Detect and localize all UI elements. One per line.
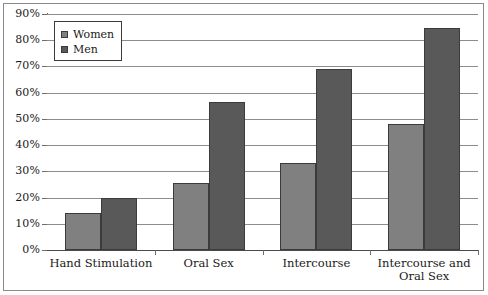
y-axis-tick-label: 50%	[2, 113, 40, 124]
legend-item-men: Men	[61, 42, 115, 56]
y-axis-tick-label: 20%	[2, 192, 40, 203]
bar-women-2	[280, 163, 316, 250]
y-axis-tick	[42, 224, 47, 225]
y-axis-tick	[42, 119, 47, 120]
bar-chart: 0%10%20%30%40%50%60%70%80%90% Hand Stimu…	[0, 0, 488, 295]
legend-label-women: Women	[73, 29, 114, 40]
bar-group	[370, 14, 478, 250]
legend-swatch-men-icon	[61, 46, 68, 53]
y-axis-labels: 0%10%20%30%40%50%60%70%80%90%	[0, 0, 40, 295]
x-axis-category-label: Intercourse	[263, 257, 371, 270]
y-axis-tick	[42, 171, 47, 172]
bar-group	[263, 14, 371, 250]
bar-men-1	[209, 102, 245, 250]
y-axis-tick-label: 90%	[2, 8, 40, 19]
legend-label-men: Men	[73, 44, 98, 55]
y-axis-tick	[42, 250, 47, 251]
bar-men-0	[101, 198, 137, 250]
y-axis-tick-label: 30%	[2, 165, 40, 176]
y-axis-tick	[42, 40, 47, 41]
y-axis-tick-label: 60%	[2, 87, 40, 98]
bar-women-1	[173, 183, 209, 250]
y-axis-tick-label: 0%	[2, 244, 40, 255]
y-axis-tick-label: 80%	[2, 34, 40, 45]
legend: Women Men	[54, 21, 122, 61]
y-axis-tick	[42, 145, 47, 146]
bar-group	[155, 14, 263, 250]
bar-men-2	[316, 69, 352, 250]
x-axis-tick	[370, 250, 371, 255]
bar-men-3	[424, 28, 460, 250]
x-axis-category-label: Intercourse and Oral Sex	[370, 257, 478, 283]
bar-women-3	[388, 124, 424, 250]
bar-women-0	[65, 213, 101, 250]
x-axis-tick	[155, 250, 156, 255]
x-axis-tick	[478, 250, 479, 255]
x-axis-tick	[263, 250, 264, 255]
y-axis-tick-label: 70%	[2, 60, 40, 71]
x-axis-category-label: Hand Stimulation	[47, 257, 155, 270]
y-axis-tick	[42, 66, 47, 67]
y-axis-tick-label: 10%	[2, 218, 40, 229]
legend-item-women: Women	[61, 27, 115, 41]
y-axis-tick	[42, 198, 47, 199]
x-axis-category-label: Oral Sex	[155, 257, 263, 270]
y-axis-tick	[42, 93, 47, 94]
legend-swatch-women-icon	[61, 31, 68, 38]
y-axis-tick	[42, 14, 47, 15]
y-axis-tick-label: 40%	[2, 139, 40, 150]
